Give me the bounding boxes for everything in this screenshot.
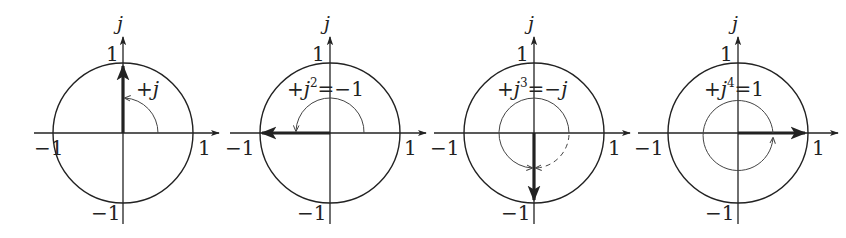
panel-j1: j 1 −1 −1 1 +j: [34, 12, 219, 225]
imag-axis-name: j: [113, 12, 123, 34]
panel-label: +j: [136, 77, 159, 101]
tick-pos-imag: 1: [516, 42, 529, 66]
panel-j3: j 1 −1 −1 1 +j3=−j: [430, 12, 630, 225]
imag-axis-name: j: [320, 12, 330, 34]
tick-neg-imag: −1: [705, 201, 734, 225]
tick-neg-real: −1: [430, 136, 459, 160]
tick-pos-imag: 1: [720, 42, 733, 66]
cropped-text-row: ........................................…: [0, 0, 846, 3]
imag-axis-name: j: [524, 12, 534, 34]
panel-label: +j2=−1: [287, 76, 364, 101]
j-operator-rotation-figure: ........................................…: [0, 0, 846, 238]
panel-label: +j4=1: [704, 76, 764, 101]
panel-label: +j3=−j: [497, 76, 567, 101]
tick-neg-real: −1: [34, 136, 63, 160]
tick-neg-imag: −1: [297, 201, 326, 225]
tick-pos-real: 1: [404, 136, 417, 160]
tick-pos-imag: 1: [312, 42, 325, 66]
tick-pos-real: 1: [608, 136, 621, 160]
panel-j2: j 1 −1 −1 1 +j2=−1: [225, 12, 426, 225]
rotation-arc: [125, 98, 158, 133]
tick-pos-real: 1: [198, 136, 211, 160]
tick-neg-real: −1: [634, 136, 663, 160]
tick-neg-real: −1: [225, 136, 254, 160]
tick-neg-imag: −1: [501, 201, 530, 225]
remaining-arc-dashed: [536, 135, 569, 168]
panel-j4: j 1 −1 −1 1 +j4=1: [634, 12, 838, 225]
tick-neg-imag: −1: [91, 201, 120, 225]
imag-axis-name: j: [728, 12, 738, 34]
tick-pos-real: 1: [812, 136, 825, 160]
tick-pos-imag: 1: [106, 42, 119, 66]
